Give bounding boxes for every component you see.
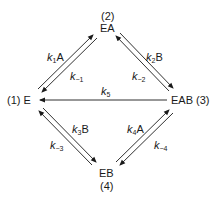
rate-k4: k4A [127, 123, 144, 139]
rate-k-4: k−4 [154, 139, 167, 155]
node-eb-number: (4) [100, 180, 113, 192]
node-eb: EB [99, 167, 114, 179]
rate-k1: k1A [47, 51, 64, 67]
node-eab: EAB (3) [171, 94, 210, 106]
rate-k5: k5 [101, 85, 110, 101]
rate-k-2: k−2 [132, 70, 145, 86]
rate-k-3: k−3 [50, 139, 63, 155]
node-ea-number: (2) [101, 10, 114, 22]
rate-k-1: k−1 [70, 70, 83, 86]
node-e: (1) E [7, 94, 31, 106]
node-ea: EA [100, 22, 115, 34]
rate-k2: k2B [146, 51, 163, 67]
rate-k3: k3B [72, 123, 89, 139]
